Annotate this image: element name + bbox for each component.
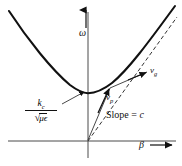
figure-canvas xyxy=(0,0,182,166)
beta-axis-label: β xyxy=(139,140,144,150)
dispersion-figure: ω β vg vp Slope = c kc √μϵ xyxy=(0,0,182,166)
vp-subscript: p xyxy=(110,97,113,104)
cutoff-leader-line xyxy=(62,92,84,104)
cutoff-k-subscript: c xyxy=(42,103,45,110)
vg-arrow xyxy=(128,73,146,81)
dispersion-curve xyxy=(9,6,175,93)
omega-axis-label: ω xyxy=(79,28,86,38)
slope-text: Slope = xyxy=(106,109,139,120)
radicand: μϵ xyxy=(39,113,47,123)
slope-value: c xyxy=(139,109,143,120)
cutoff-numerator-group: kc xyxy=(19,98,63,110)
cutoff-denominator-group: √μϵ xyxy=(19,111,63,123)
slope-label: Slope = c xyxy=(106,110,144,120)
vg-subscript: g xyxy=(154,70,157,77)
phase-velocity-label: vp xyxy=(106,93,113,104)
group-velocity-label: vg xyxy=(150,66,157,77)
cutoff-frequency-label: kc √μϵ xyxy=(19,98,63,123)
light-line-asymptote xyxy=(88,17,177,141)
radical-group: √μϵ xyxy=(35,112,48,123)
